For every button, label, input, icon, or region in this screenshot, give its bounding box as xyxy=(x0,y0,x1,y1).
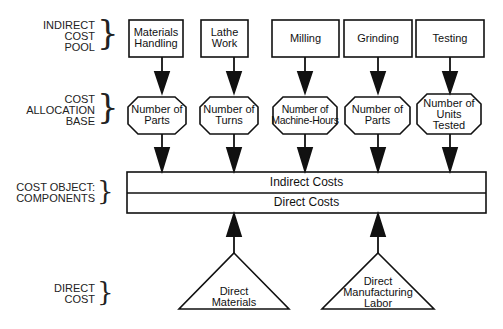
brace-icon: } xyxy=(97,279,114,305)
text-line: Milling xyxy=(272,33,339,44)
cost-pool-grinding: Grinding xyxy=(344,33,412,44)
label-direct-cost: DIRECT COST xyxy=(10,283,95,305)
direct-manufacturing-labor-label: Direct Manufacturing Labor xyxy=(333,276,423,309)
cost-pool-testing: Testing xyxy=(416,33,484,44)
cost-pool-materials-handling: Materials Handling xyxy=(129,27,183,49)
text-line: Parts xyxy=(128,115,186,126)
text-line: Parts xyxy=(345,115,410,126)
direct-materials-label: Direct Materials xyxy=(194,286,274,308)
text-line: Labor xyxy=(333,298,423,309)
allocation-base-turns: Number of Turns xyxy=(200,104,258,126)
text-line: Turns xyxy=(200,115,258,126)
indirect-costs-label: Indirect Costs xyxy=(127,177,486,188)
text-line: Machine-Hours xyxy=(270,115,340,126)
text-line: Grinding xyxy=(344,33,412,44)
brace-icon: } xyxy=(97,178,114,204)
text-line: Materials xyxy=(194,297,274,308)
label-cost-allocation-base: COST ALLOCATION BASE xyxy=(10,94,95,127)
label-cost-object: COST OBJECT: COMPONENTS xyxy=(10,182,95,204)
text-line: Tested xyxy=(417,120,481,131)
label-line: COST xyxy=(10,294,95,305)
brace-icon: } xyxy=(97,89,119,123)
allocation-base-parts-1: Number of Parts xyxy=(128,104,186,126)
allocation-base-parts-2: Number of Parts xyxy=(345,104,410,126)
cost-pool-milling: Milling xyxy=(272,33,339,44)
label-line: COMPONENTS xyxy=(10,193,95,204)
label-indirect-cost-pool: INDIRECT COST POOL xyxy=(20,20,95,53)
arrows-pool-to-base xyxy=(155,57,457,93)
allocation-base-units-tested: Number of Units Tested xyxy=(417,98,481,131)
text-line: Handling xyxy=(129,38,183,49)
arrows-base-to-object xyxy=(155,134,457,171)
brace-icon: } xyxy=(97,15,119,49)
allocation-base-machine-hours: Number of Machine-Hours xyxy=(270,104,340,126)
label-line: POOL xyxy=(20,42,95,53)
label-line: BASE xyxy=(10,116,95,127)
arrows-direct-to-object xyxy=(227,214,385,253)
direct-costs-label: Direct Costs xyxy=(127,197,486,208)
text-line: Work xyxy=(201,38,248,49)
cost-pool-lathe-work: Lathe Work xyxy=(201,27,248,49)
text-line: Testing xyxy=(416,33,484,44)
